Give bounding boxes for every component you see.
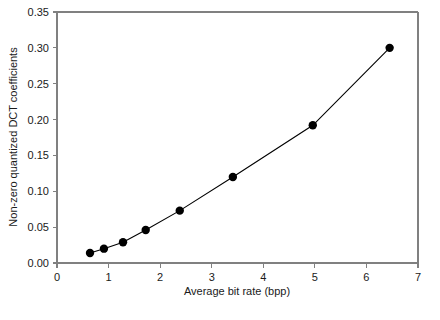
x-tick-label: 3 xyxy=(209,271,215,283)
data-point-marker xyxy=(142,226,150,234)
y-axis-title: Non-zero quantized DCT coefficients xyxy=(7,47,19,227)
y-tick-label: 0.30 xyxy=(28,42,49,54)
chart-figure: 0.000.050.100.150.200.250.300.35 0123456… xyxy=(0,0,440,320)
data-point-marker xyxy=(176,206,184,214)
data-point-marker xyxy=(100,244,108,252)
x-tick-label: 2 xyxy=(157,271,163,283)
x-tick-label: 7 xyxy=(415,271,421,283)
y-tick-label: 0.25 xyxy=(28,78,49,90)
y-tick-label: 0.10 xyxy=(28,185,49,197)
x-tick-label: 6 xyxy=(363,271,369,283)
x-tick-label: 0 xyxy=(54,271,60,283)
x-tick-label: 1 xyxy=(106,271,112,283)
chart-plot-area: 0.000.050.100.150.200.250.300.35 0123456… xyxy=(0,0,440,320)
x-tick-label: 5 xyxy=(312,271,318,283)
y-tick-label: 0.00 xyxy=(28,257,49,269)
x-axis-title: Average bit rate (bpp) xyxy=(184,285,290,297)
y-tick-label: 0.05 xyxy=(28,221,49,233)
y-tick-label: 0.20 xyxy=(28,114,49,126)
y-tick-label: 0.35 xyxy=(28,6,49,18)
y-tick-label: 0.15 xyxy=(28,149,49,161)
data-point-marker xyxy=(86,249,94,257)
data-point-marker xyxy=(229,173,237,181)
x-tick-label: 4 xyxy=(260,271,266,283)
data-point-marker xyxy=(119,238,127,246)
chart-background xyxy=(0,0,440,320)
data-point-marker xyxy=(385,44,393,52)
data-point-marker xyxy=(309,121,317,129)
